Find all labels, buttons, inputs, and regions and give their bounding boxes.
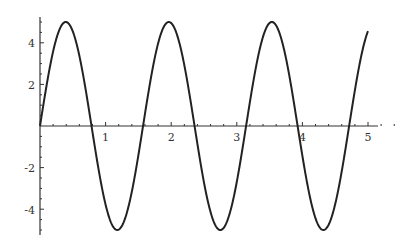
x-tick-label: 1 (102, 131, 109, 144)
x-tick-label: 2 (168, 131, 175, 144)
x-tick-label: 5 (365, 131, 372, 144)
axes (40, 17, 394, 235)
y-tick-label: -4 (24, 204, 35, 217)
y-tick-label: -2 (24, 162, 35, 175)
y-tick-labels: 4 2 -2 -4 (24, 37, 35, 217)
x-tick-label: 3 (233, 131, 240, 144)
y-tick-label: 4 (28, 37, 35, 50)
x-tick-label: 4 (299, 131, 306, 144)
chart: 1 2 3 4 5 4 2 -2 -4 (0, 0, 398, 247)
y-tick-label: 2 (28, 79, 35, 92)
